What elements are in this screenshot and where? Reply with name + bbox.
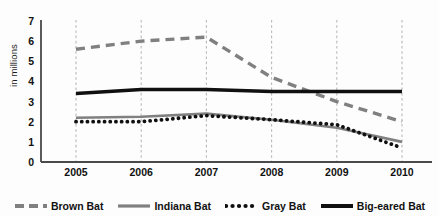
plot-area [0, 0, 439, 216]
legend-item-big-eared-bat[interactable]: Big-eared Bat [320, 201, 425, 212]
series-line-indiana-bat [76, 114, 402, 142]
x-tick-label-2008: 2008 [249, 167, 295, 178]
legend-item-gray-bat[interactable]: Gray Bat [225, 201, 306, 212]
legend-swatch-solid-icon [117, 201, 151, 211]
legend-swatch-dotted-icon [225, 201, 259, 211]
legend-item-indiana-bat[interactable]: Indiana Bat [117, 201, 211, 212]
legend-swatch-dashed-icon [14, 201, 48, 211]
y-tick-label-7: 7 [18, 16, 34, 26]
y-axis-title: in millions [8, 31, 19, 101]
x-tick-label-2010: 2010 [379, 167, 425, 178]
y-tick-label-2: 2 [18, 117, 34, 127]
legend-item-brown-bat[interactable]: Brown Bat [14, 201, 104, 212]
series-line-big-eared-bat [76, 89, 402, 93]
x-tick-label-2007: 2007 [183, 167, 229, 178]
legend-swatch-solid-icon [320, 201, 354, 211]
y-tick-label-0: 0 [18, 157, 34, 167]
legend-label: Gray Bat [262, 201, 306, 212]
x-tick-label-2009: 2009 [314, 167, 360, 178]
series-line-gray-bat [76, 116, 402, 148]
line-chart: in millions 76543210 2005200620072008200… [0, 0, 439, 216]
y-tick-label-3: 3 [18, 97, 34, 107]
series-line-brown-bat [76, 37, 402, 122]
legend-label: Big-eared Bat [357, 201, 425, 212]
y-tick-label-1: 1 [18, 137, 34, 147]
legend-label: Indiana Bat [154, 201, 211, 212]
legend-label: Brown Bat [51, 201, 104, 212]
y-tick-label-5: 5 [18, 56, 34, 66]
y-tick-label-6: 6 [18, 36, 34, 46]
chart-legend: Brown BatIndiana BatGray BatBig-eared Ba… [0, 196, 439, 216]
x-tick-label-2005: 2005 [53, 167, 99, 178]
x-tick-label-2006: 2006 [118, 167, 164, 178]
y-tick-label-4: 4 [18, 76, 34, 86]
